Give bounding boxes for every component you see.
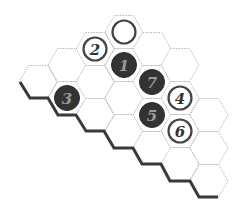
light-disc [113, 21, 136, 44]
disc-number: 3 [62, 90, 72, 108]
number-disc[interactable]: 3 [55, 86, 80, 111]
disc-number: 4 [175, 90, 185, 108]
disc-number: 2 [89, 41, 100, 59]
number-disc[interactable]: 4 [169, 87, 192, 110]
number-disc[interactable]: 6 [169, 120, 192, 143]
number-disc[interactable]: 2 [84, 38, 107, 61]
disc-number: 5 [147, 107, 157, 125]
number-disc[interactable]: 1 [112, 53, 137, 78]
disc-number: 6 [175, 123, 186, 141]
number-disc[interactable]: 5 [140, 103, 165, 128]
disc-number: 7 [147, 74, 158, 92]
number-disc[interactable] [113, 21, 136, 44]
disc-number: 1 [119, 57, 129, 75]
number-disc[interactable]: 7 [140, 70, 165, 95]
hex-puzzle-board: 2173456 [0, 0, 242, 212]
